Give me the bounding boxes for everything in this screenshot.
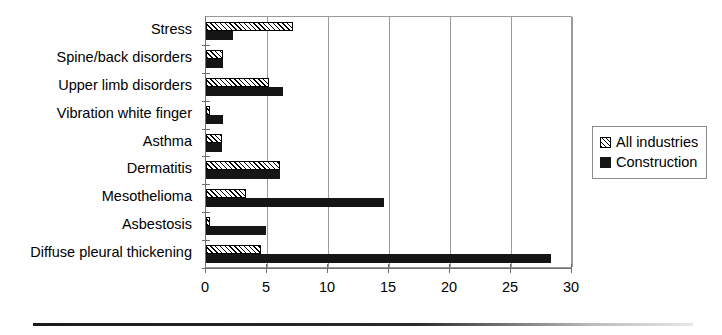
bar-construction <box>206 170 280 179</box>
category-tick <box>202 240 210 241</box>
axis-tick-20 <box>449 264 450 273</box>
bar-all-industries <box>206 161 280 170</box>
value-axis: 051015202530 <box>205 268 572 308</box>
bar-group <box>206 186 572 214</box>
axis-tick-label: 5 <box>246 279 286 296</box>
category-axis: StressSpine/back disordersUpper limb dis… <box>0 16 198 268</box>
bar-construction <box>206 115 223 124</box>
axis-tick-label: 15 <box>368 279 408 296</box>
bar-construction <box>206 87 283 96</box>
bar-group <box>206 214 572 242</box>
bar-group <box>206 103 572 131</box>
bar-construction <box>206 31 233 40</box>
bar-group <box>206 19 572 47</box>
footer-rule <box>33 323 693 326</box>
hatched-swatch-icon <box>600 137 611 148</box>
bar-all-industries <box>206 78 269 87</box>
axis-tick-5 <box>266 264 267 273</box>
plot-area <box>205 16 572 268</box>
bar-all-industries <box>206 189 246 198</box>
axis-tick-0 <box>205 264 206 273</box>
bar-construction <box>206 59 223 68</box>
category-tick <box>202 212 210 213</box>
category-label: Vibration white finger <box>2 105 192 121</box>
bar-group <box>206 47 572 75</box>
category-label: Spine/back disorders <box>2 49 192 65</box>
bar-construction <box>206 226 266 235</box>
axis-tick-10 <box>327 264 328 273</box>
category-label: Asbestosis <box>2 216 192 232</box>
bar-all-industries <box>206 217 210 226</box>
axis-tick-label: 25 <box>490 279 530 296</box>
category-tick <box>202 156 210 157</box>
bar-group <box>206 131 572 159</box>
bar-group <box>206 158 572 186</box>
gridline-30 <box>572 17 573 267</box>
category-label: Mesothelioma <box>2 188 192 204</box>
axis-tick-25 <box>510 264 511 273</box>
bar-chart: StressSpine/back disordersUpper limb dis… <box>0 0 722 335</box>
axis-tick-15 <box>388 264 389 273</box>
legend-item[interactable]: All industries <box>600 132 698 152</box>
bar-construction <box>206 198 384 207</box>
bar-all-industries <box>206 50 223 59</box>
bar-group <box>206 75 572 103</box>
axis-tick-label: 0 <box>185 279 225 296</box>
category-tick <box>202 184 210 185</box>
category-label: Dermatitis <box>2 160 192 176</box>
axis-tick-label: 10 <box>307 279 347 296</box>
bar-construction <box>206 254 551 263</box>
axis-tick-label: 30 <box>551 279 591 296</box>
bar-all-industries <box>206 134 222 143</box>
category-label: Upper limb disorders <box>2 77 192 93</box>
category-label: Asthma <box>2 133 192 149</box>
legend-item[interactable]: Construction <box>600 152 698 172</box>
category-label: Diffuse pleural thickening <box>2 244 192 260</box>
bar-all-industries <box>206 22 293 31</box>
axis-tick-label: 20 <box>429 279 469 296</box>
chart-legend: All industriesConstruction <box>592 126 707 179</box>
bar-group <box>206 242 572 270</box>
legend-label: All industries <box>616 134 698 151</box>
bar-all-industries <box>206 245 261 254</box>
bar-construction <box>206 143 222 152</box>
bar-all-industries <box>206 106 210 115</box>
axis-tick-30 <box>571 264 572 273</box>
category-label: Stress <box>2 21 192 37</box>
solid-swatch-icon <box>600 157 611 168</box>
legend-label: Construction <box>616 154 697 171</box>
